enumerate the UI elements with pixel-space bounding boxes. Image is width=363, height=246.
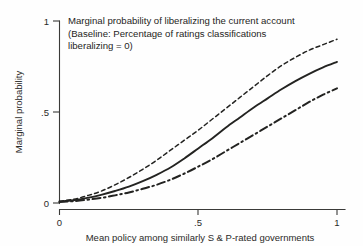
series-point-estimate xyxy=(60,62,338,202)
title-line-1: Marginal probability of liberalizing the… xyxy=(68,15,295,26)
x-tick-label-05: .5 xyxy=(194,217,202,228)
y-tick-label-0: 0 xyxy=(44,198,49,209)
chart-figure: 1 .5 0 Marginal probability 0 .5 1 Mean … xyxy=(0,0,363,246)
y-tick-label-1: 1 xyxy=(44,16,49,27)
x-axis: 0 .5 1 Mean policy among similarly S & P… xyxy=(57,210,345,244)
x-axis-title: Mean policy among similarly S & P-rated … xyxy=(86,232,315,243)
y-axis-title: Marginal probability xyxy=(13,71,24,154)
series-lower-confidence-bound xyxy=(60,88,338,202)
y-axis: 1 .5 0 Marginal probability xyxy=(13,16,60,209)
title-line-3: liberalizing = 0) xyxy=(68,40,133,51)
x-tick-label-1: 1 xyxy=(334,217,339,228)
chart-title: Marginal probability of liberalizing the… xyxy=(68,15,295,51)
x-tick-label-0: 0 xyxy=(57,217,62,228)
chart-canvas: 1 .5 0 Marginal probability 0 .5 1 Mean … xyxy=(0,0,363,246)
y-tick-label-05: .5 xyxy=(41,107,49,118)
series-group xyxy=(60,39,338,202)
title-line-2: (Baseline: Percentage of ratings classif… xyxy=(68,28,267,39)
series-upper-confidence-bound xyxy=(60,39,338,201)
